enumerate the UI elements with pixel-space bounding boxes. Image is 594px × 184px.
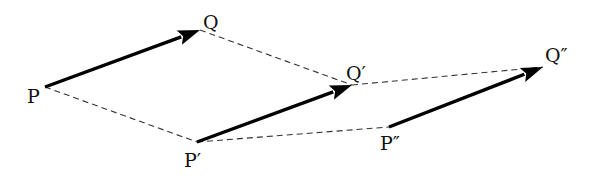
point-label-q2: Q″: [545, 44, 568, 66]
point-label-p2: P″: [380, 132, 400, 154]
vector-p2q2: [389, 74, 524, 127]
point-label-q: Q: [203, 11, 219, 33]
dashed-line-q1-q2: [352, 67, 543, 85]
dashed-line-p1-p2: [197, 127, 389, 142]
vector-translation-diagram: PQP′Q′P″Q″: [0, 0, 594, 184]
vector-p1q1: [197, 92, 333, 142]
dashed-line-p-p1: [45, 87, 197, 142]
point-label-p1: P′: [184, 149, 201, 171]
point-labels: PQP′Q′P″Q″: [27, 11, 568, 171]
dashed-line-q-q1: [200, 30, 352, 85]
vectors: [45, 30, 543, 142]
vector-pq: [45, 37, 181, 87]
point-label-q1: Q′: [346, 62, 366, 84]
dashed-lines: [45, 30, 543, 142]
point-label-p: P: [27, 85, 40, 107]
